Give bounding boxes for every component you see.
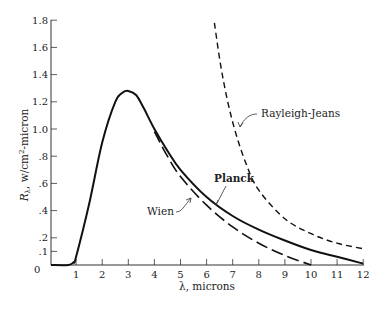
wien-label: Wien [147,205,174,217]
y-axis-title: Rλ, w/cm2-micron [18,108,32,202]
y-tick-label: 1.2 [32,96,48,107]
curves [51,23,363,265]
x-tick-label: 4 [151,269,157,280]
y-tick-label: .4 [38,205,48,216]
x-tick-label: 11 [331,269,344,280]
rayleigh-label: Rayleigh-Jeans [261,107,340,119]
x-axis-title: λ, microns [179,280,235,292]
y-tick-label: .2 [38,232,48,243]
rayleigh-leader [240,114,257,127]
planck-label: Planck [214,172,255,184]
y-title-main: R [18,193,30,202]
axes [51,20,364,265]
x-tick-label: 2 [99,269,105,280]
y-tick-label: .8 [38,151,48,162]
wien-curve [154,132,311,265]
y-tick-label: 1.6 [32,42,48,53]
x-tick-label: 8 [256,269,262,280]
y-tick-label: 1.0 [32,124,48,135]
x-tick-label: 7 [230,269,236,280]
x-tick-label: 1 [73,269,79,280]
y-ticks: .1.2.4.6.81.01.21.41.61.8 [32,15,57,257]
rayleigh-jeans-curve [214,23,363,249]
wien-leader [176,198,191,212]
planck-arrow-icon [213,200,218,205]
x-ticks: 123456789101112 [73,259,370,280]
y-tick-label: 1.8 [32,15,48,26]
y-title-rest: , w/cm [18,154,30,189]
y-tick-label: .1 [38,246,48,257]
x-tick-label: 12 [357,269,370,280]
origin-label: 0 [34,264,40,275]
x-tick-label: 6 [203,269,209,280]
x-tick-label: 5 [177,269,183,280]
blackbody-chart: .1.2.4.6.81.01.21.41.61.8 12345678910111… [0,0,389,311]
y-title-tail: -micron [18,108,30,149]
x-tick-label: 9 [282,269,288,280]
y-tick-label: .6 [38,178,48,189]
x-tick-label: 10 [305,269,318,280]
x-tick-label: 3 [125,269,131,280]
y-tick-label: 1.4 [32,69,48,80]
